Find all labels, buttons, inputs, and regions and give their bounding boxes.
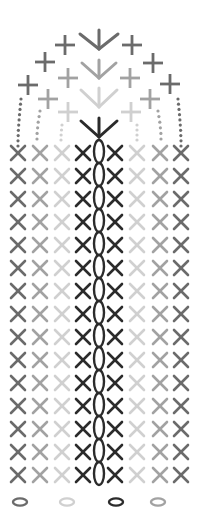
chain-stitch-icon [94, 209, 104, 232]
plus-stitch-icon [35, 52, 55, 72]
single-crochet-x-icon [174, 376, 188, 390]
chain-stitch-icon [94, 439, 104, 462]
single-crochet-x-icon [153, 307, 167, 321]
slip-stitch-dots-icon [35, 109, 41, 140]
center-chain-column [94, 140, 104, 485]
plus-stitch-icon [120, 68, 140, 88]
single-crochet-x-icon [11, 261, 25, 275]
single-crochet-x-icon [130, 169, 144, 183]
single-crochet-x-icon [174, 146, 188, 160]
single-crochet-x-icon [174, 307, 188, 321]
chain-stitch-icon [94, 324, 104, 347]
plus-stitch-icon [55, 35, 75, 55]
chain-stitch-icon [94, 370, 104, 393]
chain-stitch-icon [94, 140, 104, 163]
single-crochet-x-icon [153, 284, 167, 298]
single-crochet-x-icon [130, 307, 144, 321]
single-crochet-x-icon [55, 422, 69, 436]
single-crochet-x-icon [76, 284, 90, 298]
increase-v-icon [81, 88, 117, 107]
single-crochet-x-icon [33, 376, 47, 390]
single-crochet-x-icon [11, 330, 25, 344]
single-crochet-x-icon [130, 445, 144, 459]
single-crochet-x-icon [55, 284, 69, 298]
chain-stitch-icon [94, 301, 104, 324]
single-crochet-x-icon [153, 330, 167, 344]
single-crochet-x-icon [55, 169, 69, 183]
single-crochet-x-icon [108, 192, 122, 206]
single-crochet-x-icon [108, 445, 122, 459]
single-crochet-x-icon [11, 353, 25, 367]
slip-stitch-dots-icon [176, 97, 182, 147]
single-crochet-x-icon [11, 215, 25, 229]
single-crochet-x-icon [108, 376, 122, 390]
single-crochet-x-icon [55, 399, 69, 413]
chain-loop-icon [151, 498, 165, 505]
single-crochet-x-icon [76, 468, 90, 482]
single-crochet-x-icon [108, 169, 122, 183]
single-crochet-x-icon [174, 468, 188, 482]
single-crochet-x-icon [108, 330, 122, 344]
single-crochet-x-icon [33, 330, 47, 344]
single-crochet-x-icon [174, 445, 188, 459]
single-crochet-x-icon [33, 169, 47, 183]
single-crochet-x-icon [76, 307, 90, 321]
single-crochet-x-icon [174, 238, 188, 252]
single-crochet-x-icon [55, 445, 69, 459]
chain-stitch-icon [94, 462, 104, 485]
chain-stitch-icon [94, 163, 104, 186]
single-crochet-x-icon [55, 261, 69, 275]
single-crochet-x-icon [11, 399, 25, 413]
plus-stitch-icon [143, 53, 163, 73]
chain-stitch-icon [94, 255, 104, 278]
chain-stitch-icon [94, 186, 104, 209]
single-crochet-x-icon [11, 376, 25, 390]
single-crochet-x-icon [11, 146, 25, 160]
single-crochet-grid [11, 146, 188, 482]
single-crochet-x-icon [33, 192, 47, 206]
single-crochet-x-icon [33, 422, 47, 436]
single-crochet-x-icon [108, 307, 122, 321]
single-crochet-x-icon [55, 376, 69, 390]
plus-stitch-icon [121, 102, 141, 122]
single-crochet-x-icon [153, 238, 167, 252]
single-crochet-x-icon [130, 376, 144, 390]
single-crochet-x-icon [153, 146, 167, 160]
single-crochet-x-icon [76, 238, 90, 252]
single-crochet-x-icon [174, 215, 188, 229]
increase-v-icon [81, 118, 117, 137]
foundation-chain-ovals [13, 498, 165, 505]
slip-stitch-dots-icon [135, 123, 138, 141]
single-crochet-x-icon [130, 468, 144, 482]
single-crochet-x-icon [55, 238, 69, 252]
chain-stitch-icon [94, 278, 104, 301]
single-crochet-x-icon [153, 445, 167, 459]
increase-v-icon [82, 60, 116, 78]
single-crochet-x-icon [55, 307, 69, 321]
single-crochet-x-icon [33, 353, 47, 367]
single-crochet-x-icon [11, 468, 25, 482]
single-crochet-x-icon [33, 399, 47, 413]
stitch-diagram [0, 0, 200, 532]
single-crochet-x-icon [76, 353, 90, 367]
single-crochet-x-icon [130, 284, 144, 298]
single-crochet-x-icon [108, 215, 122, 229]
single-crochet-x-icon [108, 422, 122, 436]
single-crochet-x-icon [76, 445, 90, 459]
single-crochet-x-icon [174, 353, 188, 367]
slip-stitch-dots-icon [16, 97, 22, 147]
single-crochet-x-icon [33, 307, 47, 321]
single-crochet-x-icon [108, 284, 122, 298]
single-crochet-x-icon [108, 399, 122, 413]
single-crochet-x-icon [108, 353, 122, 367]
plus-stitch-icon [122, 35, 142, 55]
chain-loop-icon [13, 498, 27, 505]
single-crochet-x-icon [153, 169, 167, 183]
single-crochet-x-icon [33, 284, 47, 298]
chain-stitch-icon [94, 416, 104, 439]
single-crochet-x-icon [174, 192, 188, 206]
single-crochet-x-icon [76, 422, 90, 436]
single-crochet-x-icon [33, 261, 47, 275]
plus-stitch-icon [58, 68, 78, 88]
single-crochet-x-icon [76, 261, 90, 275]
